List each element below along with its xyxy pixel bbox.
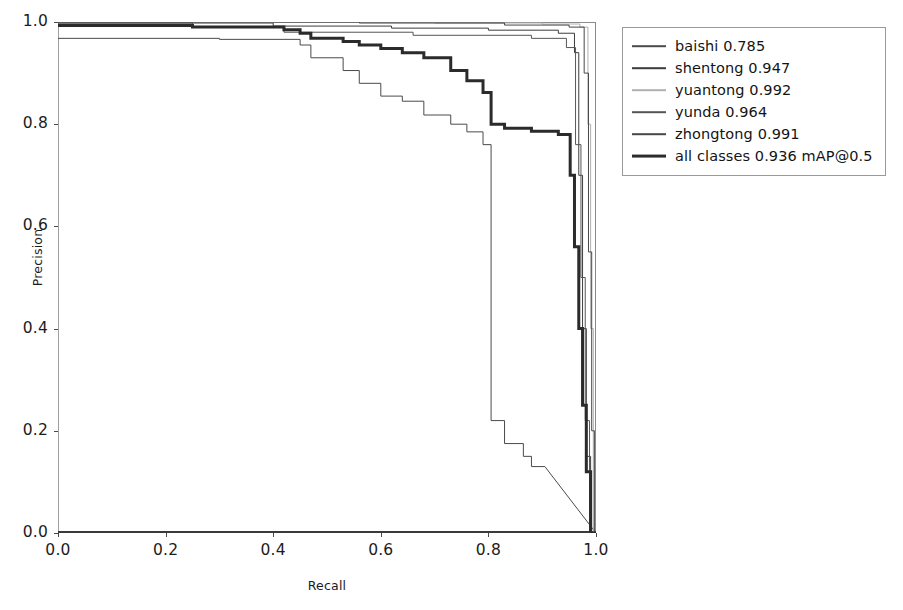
legend-item-all-classes: all classes 0.936 mAP@0.5 <box>632 145 875 167</box>
legend-line-swatch <box>632 39 666 53</box>
legend-item-shentong: shentong 0.947 <box>632 57 875 79</box>
x-tick-label: 0.4 <box>251 541 295 559</box>
x-tick-mark <box>273 533 274 537</box>
series-line-baishi <box>58 38 596 533</box>
y-tick-label: 0.0 <box>6 523 48 541</box>
series-line-zhongtong <box>58 22 596 533</box>
series-line-shentong <box>58 23 596 533</box>
x-tick-label: 0.0 <box>36 541 80 559</box>
x-tick-label: 0.2 <box>144 541 188 559</box>
legend-line-swatch <box>632 127 666 141</box>
y-tick-label: 0.8 <box>6 114 48 132</box>
y-axis-label: Precision <box>30 198 45 318</box>
legend-label: baishi 0.785 <box>675 38 765 54</box>
legend-line-swatch <box>632 61 666 75</box>
y-tick-mark <box>54 226 58 227</box>
legend-line-swatch <box>632 105 666 119</box>
x-tick-mark <box>381 533 382 537</box>
x-tick-mark <box>488 533 489 537</box>
y-tick-label: 0.4 <box>6 319 48 337</box>
x-tick-mark <box>58 533 59 537</box>
x-tick-label: 1.0 <box>574 541 618 559</box>
y-tick-label: 1.0 <box>6 12 48 30</box>
legend: baishi 0.785shentong 0.947yuantong 0.992… <box>622 27 886 176</box>
y-tick-mark <box>54 124 58 125</box>
curves-layer <box>58 22 596 533</box>
x-tick-label: 0.8 <box>466 541 510 559</box>
precision-recall-figure: 0.00.20.40.60.81.0 0.00.20.40.60.81.0 Re… <box>0 0 903 610</box>
plot-area <box>58 22 596 533</box>
legend-label: shentong 0.947 <box>675 60 790 76</box>
y-tick-label: 0.2 <box>6 421 48 439</box>
legend-item-baishi: baishi 0.785 <box>632 35 875 57</box>
legend-label: yuantong 0.992 <box>675 82 791 98</box>
y-tick-mark <box>54 329 58 330</box>
legend-item-zhongtong: zhongtong 0.991 <box>632 123 875 145</box>
legend-item-yunda: yunda 0.964 <box>632 101 875 123</box>
x-tick-label: 0.6 <box>359 541 403 559</box>
series-line-yunda <box>58 23 596 533</box>
x-tick-mark <box>596 533 597 537</box>
x-tick-mark <box>166 533 167 537</box>
x-axis-label: Recall <box>58 578 596 593</box>
legend-line-swatch <box>632 83 666 97</box>
legend-label: zhongtong 0.991 <box>675 126 800 142</box>
legend-line-swatch <box>632 149 666 163</box>
y-tick-mark <box>54 431 58 432</box>
y-tick-mark <box>54 22 58 23</box>
legend-label: yunda 0.964 <box>675 104 767 120</box>
y-tick-mark <box>54 533 58 534</box>
series-line-all-classes <box>58 26 596 533</box>
series-line-yuantong <box>58 22 596 533</box>
legend-item-yuantong: yuantong 0.992 <box>632 79 875 101</box>
legend-label: all classes 0.936 mAP@0.5 <box>675 148 873 164</box>
